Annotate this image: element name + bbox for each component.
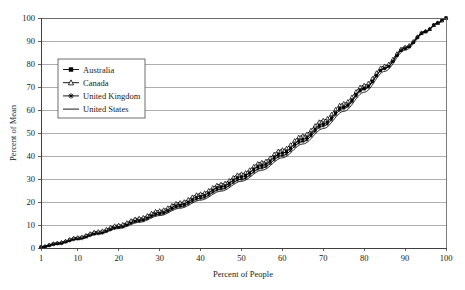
y-tick-label-30: 30 <box>27 174 36 184</box>
data-point-marker <box>338 108 342 112</box>
y-tick-label-60: 60 <box>27 105 36 115</box>
legend[interactable]: AustraliaCanadaUnited KingdomUnited Stat… <box>58 59 145 118</box>
legend-marker-star <box>68 93 74 99</box>
x-tick-label-30: 30 <box>155 253 164 263</box>
legend-label: United States <box>83 104 129 114</box>
y-tick-label-50: 50 <box>27 128 36 138</box>
data-point-marker <box>407 44 411 48</box>
y-tick-label-70: 70 <box>27 82 36 92</box>
x-tick-label-70: 70 <box>319 253 328 263</box>
legend-marker-filled-square <box>69 67 73 71</box>
data-point-marker <box>240 177 244 181</box>
y-tick-label-40: 40 <box>27 151 36 161</box>
data-point-marker <box>317 126 321 130</box>
data-point-marker <box>362 87 366 91</box>
x-tick-label-20: 20 <box>114 253 123 263</box>
data-point-marker <box>383 67 387 71</box>
chart-container: 0102030405060708090100 11020304050607080… <box>0 0 465 290</box>
data-point-marker <box>96 232 100 236</box>
data-point-marker <box>297 141 301 145</box>
legend-label: Canada <box>83 78 109 88</box>
data-point-marker <box>219 187 223 191</box>
data-point-marker <box>342 106 346 110</box>
y-tick-label-90: 90 <box>27 36 36 46</box>
data-point-marker <box>432 23 436 27</box>
y-tick-label-0: 0 <box>31 243 35 253</box>
data-point-marker <box>321 124 325 128</box>
y-tick-label-80: 80 <box>27 59 36 69</box>
x-axis-title: Percent of People <box>213 269 273 279</box>
chart-background <box>0 0 465 290</box>
data-point-marker <box>403 46 407 50</box>
x-tick-label-50: 50 <box>237 253 246 263</box>
data-point-marker <box>301 140 305 144</box>
data-point-marker <box>358 89 362 93</box>
x-tick-label-10: 10 <box>74 253 83 263</box>
legend-label: United Kingdom <box>83 91 141 101</box>
x-tick-label-100: 100 <box>440 253 453 263</box>
lorenz-chart: 0102030405060708090100 11020304050607080… <box>0 0 465 290</box>
y-tick-label-20: 20 <box>27 197 36 207</box>
x-tick-label-1: 1 <box>39 253 43 263</box>
y-axis-title: Percent of Mean <box>8 104 18 161</box>
x-tick-label-60: 60 <box>278 253 287 263</box>
legend-label: Australia <box>83 65 114 75</box>
x-tick-label-40: 40 <box>196 253 205 263</box>
y-tick-label-10: 10 <box>27 220 36 230</box>
x-tick-label-80: 80 <box>360 253 369 263</box>
y-tick-label-100: 100 <box>22 13 35 23</box>
data-point-marker <box>280 154 284 158</box>
x-tick-label-90: 90 <box>401 253 410 263</box>
data-point-marker <box>260 166 264 170</box>
